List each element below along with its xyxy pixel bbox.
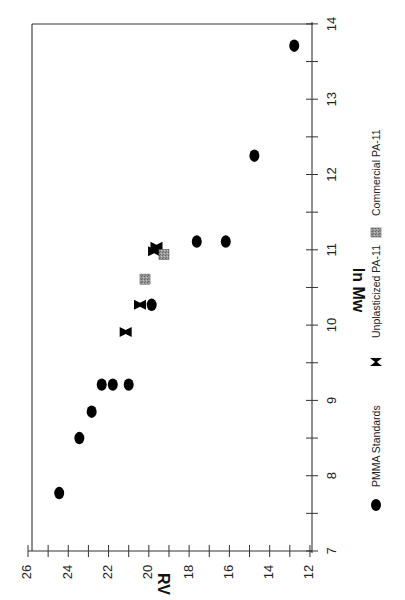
ln-mw-tick-label: 14 [324, 17, 339, 31]
ln-mw-tick-label: 10 [324, 318, 339, 332]
rv-tick-label: 16 [221, 565, 236, 579]
ln-mw-axis-title: ln Mw [350, 268, 367, 313]
rv-tick-label: 14 [261, 565, 276, 579]
legend-item-pmma: PMMA Standards [370, 405, 382, 511]
rv-tick-label: 22 [100, 565, 115, 579]
rv-tick-label: 24 [60, 565, 75, 579]
rv-axis-title: RV [155, 573, 172, 595]
rv-tick-label: 12 [301, 565, 316, 579]
pmma-standard-point [87, 405, 97, 417]
pmma-standard-point [192, 235, 202, 247]
legend-label-commercial: Commercial PA-11 [370, 129, 382, 216]
ln-mw-tick-label: 12 [324, 167, 339, 181]
legend-item-commercial: Commercial PA-11 [370, 129, 382, 237]
pmma-standard-point [74, 432, 84, 444]
unplasticized-pa11-point [120, 327, 132, 337]
legend-label-unplasticized: Unplasticized PA-11 [370, 245, 382, 338]
unplasticized-pa11-point [134, 300, 146, 310]
scatter-chart: 1214161820222426 7891011121314 RV ln Mw … [0, 0, 405, 600]
data-points [54, 40, 299, 500]
pmma-standard-point [108, 378, 118, 390]
grey-square-marker-icon [371, 228, 381, 237]
ln-mw-tick-label: 13 [324, 92, 339, 106]
commercial-pa11-point [159, 249, 169, 259]
rv-tick-label: 18 [181, 565, 196, 579]
ln-mw-tick-label: 11 [324, 243, 339, 256]
pmma-standard-point [221, 235, 231, 247]
pmma-standard-point [54, 487, 64, 499]
ellipse-marker-icon [371, 499, 381, 511]
pmma-standard-point [249, 149, 259, 161]
pmma-standard-point [147, 299, 157, 311]
rv-tick-label: 20 [140, 565, 155, 579]
legend-label-pmma: PMMA Standards [370, 405, 382, 487]
ln-mw-tick-label: 8 [324, 472, 339, 479]
pmma-standard-point [97, 378, 107, 390]
pmma-standard-point [124, 378, 134, 390]
legend-item-unplasticized: Unplasticized PA-11 [370, 245, 382, 366]
pmma-standard-point [289, 40, 299, 52]
rv-tick-label: 26 [19, 565, 34, 579]
ln-mw-axis-ticks: 7891011121314 [306, 17, 339, 555]
bowtie-marker-icon [370, 358, 382, 366]
ln-mw-tick-label: 7 [324, 547, 339, 554]
plot-frame [32, 24, 313, 551]
commercial-pa11-point [140, 274, 150, 284]
ln-mw-tick-label: 9 [324, 397, 339, 404]
legend: PMMA Standards Unplasticized PA-11 Comme… [370, 129, 382, 511]
